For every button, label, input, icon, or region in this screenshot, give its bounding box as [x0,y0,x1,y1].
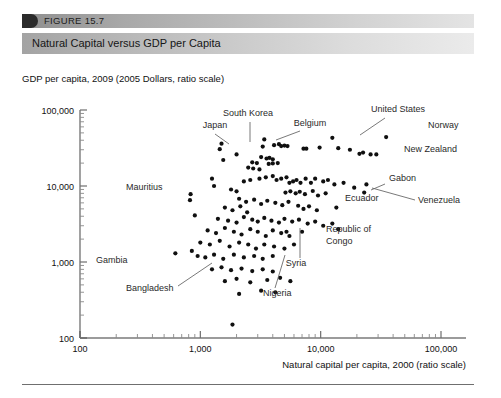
data-point [196,254,200,258]
data-point [251,166,255,170]
data-point [252,254,256,258]
data-point [357,152,361,156]
data-point [221,158,225,162]
data-point [271,254,275,258]
data-point [230,323,234,327]
data-point [309,181,313,185]
data-point [298,181,302,185]
data-point [321,179,325,183]
data-point [282,247,286,251]
data-point [288,189,292,193]
data-point [246,242,250,246]
data-point [271,174,275,178]
data-point [259,202,263,206]
data-point [193,213,197,217]
data-point [311,189,315,193]
data-point [262,242,266,246]
data-point [324,191,328,195]
annotation-label: South Korea [223,108,273,118]
data-point [214,231,218,235]
data-point [257,167,261,171]
data-point [248,178,252,182]
data-point [226,219,230,223]
annotation-label: Japan [203,120,228,130]
data-point [244,200,248,204]
data-point [286,200,290,204]
annotation-leader [275,255,285,288]
data-point [250,218,254,222]
x-axis-tick-labels: 1001,00010,000100,000 [72,344,457,354]
annotation-leader [276,131,300,140]
data-point [261,257,265,261]
data-point [262,216,266,220]
data-point [250,160,254,164]
data-point [261,267,265,271]
y-axis-ticks [80,110,87,338]
data-point [242,215,246,219]
data-point [297,218,301,222]
data-point [232,253,236,257]
data-point [237,292,241,296]
data-point [257,177,261,181]
figure-tab-cap-shape [22,14,38,28]
y-tick-label: 100 [59,334,74,344]
data-point [361,151,365,155]
figure-number-label: FIGURE 15.7 [44,15,104,26]
figure-title-label: Natural Capital versus GDP per Capita [32,37,221,49]
data-point [304,147,308,151]
data-point [269,219,273,223]
data-point [315,208,319,212]
annotation-leader [371,184,385,190]
data-point [267,162,271,166]
annotation-label: Venezuela [418,195,460,205]
data-point [272,143,276,147]
data-point [216,217,220,221]
annotation-label: New Zealand [404,144,457,154]
data-point [242,255,246,259]
data-point [261,144,265,148]
y-tick-label: 100,000 [41,106,74,116]
data-point [303,192,307,196]
data-point [203,255,207,259]
data-point [287,181,291,185]
data-point [288,279,292,283]
data-point [307,204,311,208]
data-point [223,226,227,230]
data-point [221,257,225,261]
annotation-label: Bangladesh [126,283,174,293]
data-point [271,161,275,165]
annotation-label: Gabon [389,173,416,183]
data-point [265,278,269,282]
annotation-label: Gambia [96,255,128,265]
data-point [282,217,286,221]
data-point [223,205,227,209]
data-point [250,269,254,273]
data-point [210,267,214,271]
x-tick-label: 100 [72,344,87,354]
data-point [330,136,334,140]
data-point [283,190,287,194]
data-point [374,152,378,156]
y-tick-label: 1,000 [51,258,74,268]
annotation-label: Nigeria [263,288,292,298]
data-point [313,220,317,224]
data-point [271,228,275,232]
data-point [254,247,258,251]
data-point [316,193,320,197]
data-point [189,192,193,196]
data-point [239,232,243,236]
data-point [279,231,283,235]
data-point [239,266,243,270]
data-point [248,280,252,284]
annotation-leader [360,118,385,135]
data-point [273,201,277,205]
data-point [336,146,340,150]
data-point [234,277,238,281]
data-point [290,220,294,224]
data-point [265,199,269,203]
y-axis-title: GDP per capita, 2009 (2005 Dollars, rati… [22,73,224,84]
annotation-label: Norway [428,120,459,130]
data-point [219,265,223,269]
footer-rule [22,384,474,385]
data-point [234,220,238,224]
